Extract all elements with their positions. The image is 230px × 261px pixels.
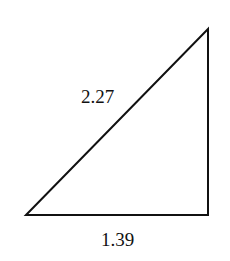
hypotenuse-label: 2.27 — [81, 86, 114, 107]
base-label: 1.39 — [101, 229, 134, 250]
right-triangle — [26, 29, 208, 215]
triangle-diagram: 2.27 1.39 — [0, 0, 230, 261]
